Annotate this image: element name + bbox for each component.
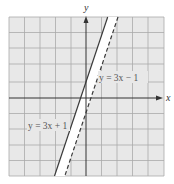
y-axis-label: y bbox=[83, 2, 89, 13]
graph: y x y = 3x − 1 y = 3x + 1 bbox=[0, 0, 174, 184]
dashed-line-label: y = 3x − 1 bbox=[99, 73, 138, 83]
x-axis-label: x bbox=[165, 92, 171, 103]
solid-line-label: y = 3x + 1 bbox=[28, 121, 67, 131]
